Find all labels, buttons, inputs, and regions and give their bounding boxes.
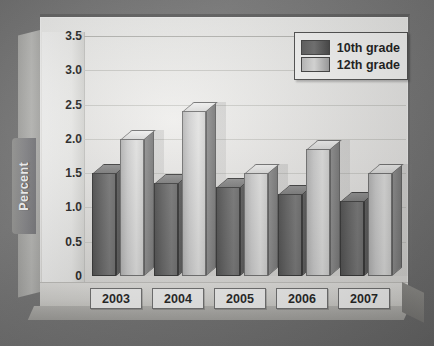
bar-2007-12th-grade[interactable] xyxy=(368,173,392,276)
x-axis-label-2003: 2003 xyxy=(90,288,142,309)
legend-swatch-10th-grade xyxy=(301,40,330,55)
bar-2005-12th-grade[interactable] xyxy=(244,173,268,276)
bar-face xyxy=(120,139,144,276)
y-axis-tick-label: 1.5 xyxy=(42,166,82,180)
legend-label-10th-grade: 10th grade xyxy=(337,41,400,55)
bar-face xyxy=(306,149,330,276)
y-axis-title: Percent xyxy=(17,162,31,211)
bar-2006-12th-grade[interactable] xyxy=(306,149,330,276)
gridline xyxy=(84,105,406,106)
chart-image: Percent 00.51.01.52.02.53.03.5 200320042… xyxy=(0,0,434,346)
x-axis-label-2007: 2007 xyxy=(338,288,390,309)
y-axis-tick-label: 2.5 xyxy=(42,98,82,112)
legend-label-12th-grade: 12th grade xyxy=(337,58,400,72)
bar-side-3d xyxy=(392,165,402,276)
chart-legend: 10th grade 12th grade xyxy=(294,32,408,80)
y-axis-tick-label: 0 xyxy=(42,269,82,283)
bar-2004-12th-grade[interactable] xyxy=(182,111,206,276)
y-axis-tick-label: 3.5 xyxy=(42,29,82,43)
legend-item: 12th grade xyxy=(301,57,400,72)
bar-2005-10th-grade[interactable] xyxy=(216,187,240,276)
bar-face xyxy=(216,187,240,276)
bar-side-3d xyxy=(144,130,154,276)
y-axis-tick-labels: 00.51.01.52.02.53.03.5 xyxy=(38,36,82,276)
bar-face xyxy=(92,173,116,276)
y-axis-tick-label: 0.5 xyxy=(42,235,82,249)
y-axis-tick-label: 2.0 xyxy=(42,132,82,146)
bar-2004-10th-grade[interactable] xyxy=(154,183,178,276)
bar-face xyxy=(244,173,268,276)
bar-face xyxy=(154,183,178,276)
bar-side-3d xyxy=(206,103,216,276)
legend-swatch-12th-grade xyxy=(301,57,330,72)
legend-item: 10th grade xyxy=(301,40,400,55)
bar-face xyxy=(368,173,392,276)
bar-2006-10th-grade[interactable] xyxy=(278,194,302,276)
bar-face xyxy=(340,201,364,276)
bar-2007-10th-grade[interactable] xyxy=(340,201,364,276)
y-axis-tick-label: 3.0 xyxy=(42,63,82,77)
x-axis-label-2006: 2006 xyxy=(276,288,328,309)
bar-2003-12th-grade[interactable] xyxy=(120,139,144,276)
x-axis-category-labels: 20032004200520062007 xyxy=(84,288,414,312)
x-axis-label-2005: 2005 xyxy=(214,288,266,309)
x-axis-label-2004: 2004 xyxy=(152,288,204,309)
bar-side-3d xyxy=(268,165,278,276)
bar-face xyxy=(182,111,206,276)
bar-2003-10th-grade[interactable] xyxy=(92,173,116,276)
bar-face xyxy=(278,194,302,276)
chart-card: Percent 00.51.01.52.02.53.03.5 200320042… xyxy=(12,6,422,331)
bar-side-3d xyxy=(330,141,340,276)
y-axis-title-tab: Percent xyxy=(12,138,36,234)
y-axis-tick-label: 1.0 xyxy=(42,200,82,214)
